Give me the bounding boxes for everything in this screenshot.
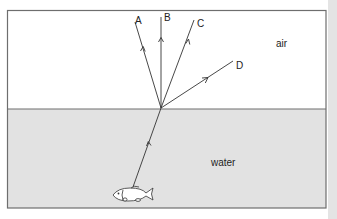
water-region <box>8 109 327 208</box>
refraction-diagram: A B C D air water <box>0 0 337 219</box>
medium-label-air: air <box>276 38 288 49</box>
ray-label-d: D <box>236 60 243 71</box>
ray-label-b: B <box>164 12 171 23</box>
ray-label-a: A <box>135 15 142 26</box>
medium-label-water: water <box>210 157 236 168</box>
air-region <box>8 11 327 110</box>
ray-label-c: C <box>197 18 204 29</box>
